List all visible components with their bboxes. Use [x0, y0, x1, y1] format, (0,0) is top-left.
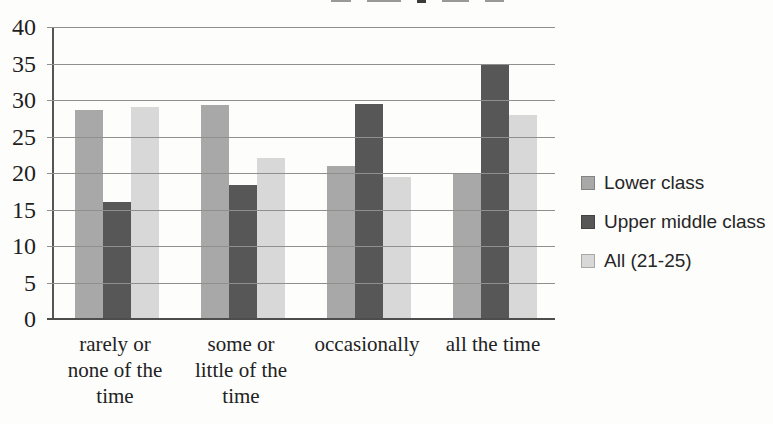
- gridline-0: [47, 318, 555, 320]
- title-fragment-dash: [367, 0, 401, 2]
- cropped-title-fragment: [331, 0, 504, 3]
- gridline-15: [47, 210, 555, 211]
- legend-item-all-21-25-: All (21-25): [581, 250, 766, 272]
- x-category-label-4: all the time: [418, 331, 568, 357]
- y-tick-label-20: 20: [0, 158, 36, 188]
- legend-label: All (21-25): [604, 250, 692, 272]
- legend-swatch-icon: [581, 176, 595, 190]
- title-fragment-dash: [485, 0, 504, 2]
- bar-lower-class-3: [327, 166, 355, 319]
- y-tick-label-10: 10: [0, 231, 36, 261]
- y-tick-label-30: 30: [0, 85, 36, 115]
- y-tick-label-15: 15: [0, 195, 36, 225]
- gridline-40: [47, 27, 555, 28]
- y-tick-label-40: 40: [0, 12, 36, 42]
- gridline-30: [47, 100, 555, 101]
- bar-all-21-25--4: [509, 115, 537, 319]
- bar-lower-class-1: [75, 110, 103, 320]
- legend-label: Lower class: [604, 172, 704, 194]
- legend-swatch-icon: [581, 254, 595, 268]
- legend-item-lower-class: Lower class: [581, 172, 766, 194]
- gridline-20: [47, 173, 555, 174]
- bar-upper-middle-class-4: [481, 64, 509, 320]
- y-tick-label-35: 35: [0, 49, 36, 79]
- title-fragment-dash: [331, 0, 351, 2]
- bar-upper-middle-class-2: [229, 185, 257, 319]
- bar-all-21-25--1: [131, 107, 159, 319]
- legend: Lower classUpper middle classAll (21-25): [581, 172, 766, 289]
- y-tick-label-5: 5: [0, 268, 36, 298]
- gridline-35: [47, 64, 555, 65]
- y-tick-label-0: 0: [0, 304, 36, 334]
- bar-all-21-25--2: [257, 158, 285, 319]
- title-fragment-dash: [417, 0, 426, 3]
- title-fragment-dash: [442, 0, 469, 2]
- gridline-10: [47, 246, 555, 247]
- gridline-25: [47, 137, 555, 138]
- plot-area: [52, 27, 555, 319]
- legend-swatch-icon: [581, 215, 595, 229]
- legend-item-upper-middle-class: Upper middle class: [581, 211, 766, 233]
- x-axis-labels: rarely or none of the timesome or little…: [0, 331, 773, 421]
- y-tick-label-25: 25: [0, 122, 36, 152]
- bar-upper-middle-class-1: [103, 202, 131, 319]
- y-axis-labels: 0510152025303540: [0, 27, 52, 319]
- bar-all-21-25--3: [383, 177, 411, 319]
- legend-label: Upper middle class: [604, 211, 766, 233]
- gridline-5: [47, 283, 555, 284]
